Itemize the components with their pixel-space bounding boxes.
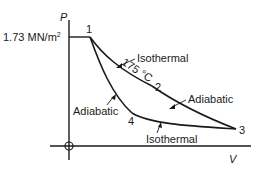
adiabatic-curve-1-4 bbox=[90, 37, 132, 113]
point-2-label: 2 bbox=[155, 81, 161, 93]
point-4-label: 4 bbox=[128, 115, 134, 127]
adiabatic-label-upper: Adiabatic bbox=[188, 93, 234, 105]
pressure-value-text: 1.73 MN/m bbox=[3, 31, 57, 43]
pv-diagram: P V 1.73 MN/m2 1 2 3 4 175 °C Isothermal… bbox=[0, 0, 260, 170]
point-3-label: 3 bbox=[239, 124, 245, 136]
arrow-head-icon bbox=[169, 104, 175, 109]
y-axis-label: P bbox=[60, 11, 68, 23]
isothermal-label-lower: Isothermal bbox=[146, 133, 197, 145]
point-1-label: 1 bbox=[86, 23, 92, 35]
isothermal-curve-4-3 bbox=[132, 113, 236, 129]
x-axis-label: V bbox=[229, 153, 238, 165]
pressure-value-label: 1.73 MN/m2 bbox=[3, 31, 61, 43]
isothermal-label-upper: Isothermal bbox=[137, 52, 188, 64]
adiabatic-label-left: Adiabatic bbox=[73, 105, 119, 117]
pressure-unit-superscript: 2 bbox=[57, 31, 61, 38]
